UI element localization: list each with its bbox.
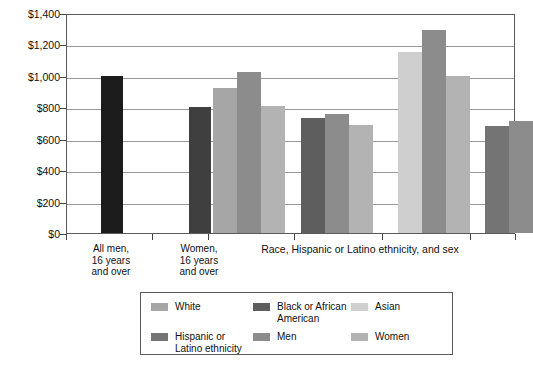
legend-label: Hispanic or Latino ethnicity bbox=[175, 331, 242, 355]
bar-grouped bbox=[301, 118, 325, 233]
legend-label: Women bbox=[375, 331, 409, 343]
legend-swatch bbox=[351, 333, 368, 341]
legend-label: Black or African American bbox=[277, 301, 346, 325]
bar-standalone bbox=[189, 107, 211, 233]
x-axis-tick bbox=[66, 234, 67, 240]
bar-grouped bbox=[509, 121, 533, 233]
bar-standalone bbox=[101, 76, 123, 233]
legend-item: Asian bbox=[351, 301, 400, 313]
legend-swatch bbox=[253, 303, 270, 311]
legend-swatch bbox=[151, 303, 168, 311]
legend-swatch bbox=[253, 333, 270, 341]
bar-grouped bbox=[422, 30, 446, 233]
bar-grouped bbox=[446, 76, 470, 233]
legend-item: White bbox=[151, 301, 201, 313]
legend-item: Hispanic or Latino ethnicity bbox=[151, 331, 242, 355]
y-axis-ticks bbox=[0, 14, 66, 234]
bar-grouped bbox=[398, 52, 422, 233]
x-axis-tick bbox=[208, 234, 209, 240]
x-axis-tick bbox=[382, 234, 383, 240]
legend-item: Black or African American bbox=[253, 301, 346, 325]
legend-swatch bbox=[351, 303, 368, 311]
plot-area bbox=[66, 14, 515, 234]
bar-chart: $1,400$1,200$1,000$800$600$400$200$0 All… bbox=[0, 0, 533, 365]
bar-grouped bbox=[237, 72, 261, 233]
x-axis-tick bbox=[152, 234, 153, 240]
x-axis-tick bbox=[470, 234, 471, 240]
legend-swatch bbox=[151, 333, 168, 341]
gridline bbox=[67, 46, 514, 47]
x-axis-category-label: All men, 16 years and over bbox=[71, 243, 151, 278]
legend-label: Asian bbox=[375, 301, 400, 313]
bar-grouped bbox=[325, 114, 349, 233]
legend-item: Women bbox=[351, 331, 409, 343]
x-axis-tick bbox=[515, 234, 516, 240]
bar-grouped bbox=[213, 88, 237, 233]
x-axis-label: Race, Hispanic or Latino ethnicity, and … bbox=[210, 243, 510, 255]
bar-grouped bbox=[349, 125, 373, 233]
legend-label: Men bbox=[277, 331, 296, 343]
legend-item: Men bbox=[253, 331, 296, 343]
x-axis-tick bbox=[294, 234, 295, 240]
bar-grouped bbox=[485, 126, 509, 233]
legend-label: White bbox=[175, 301, 201, 313]
legend: WhiteBlack or African AmericanAsianHispa… bbox=[140, 292, 453, 355]
bar-grouped bbox=[261, 106, 285, 233]
